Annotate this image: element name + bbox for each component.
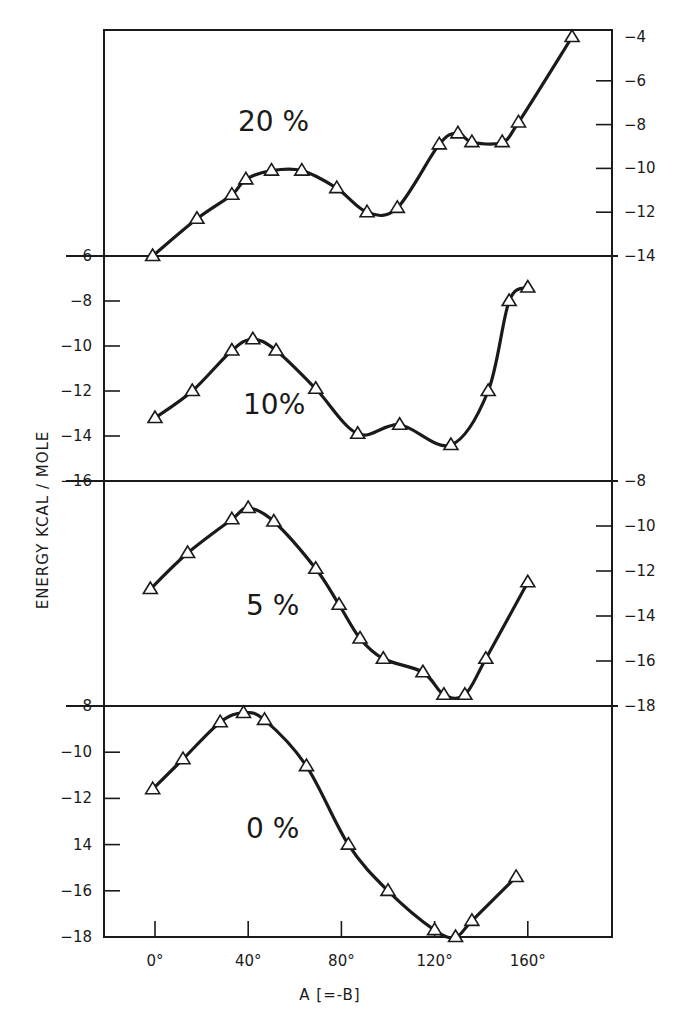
y-tick-label: −16 xyxy=(60,882,92,900)
y-tick-label: −18 xyxy=(624,697,656,715)
triangle-marker xyxy=(565,30,579,42)
plot-frame xyxy=(104,30,612,937)
y-tick-label: −12 xyxy=(624,562,656,580)
axis-ticks xyxy=(104,81,612,937)
triangle-marker xyxy=(481,384,495,396)
curve-0-percent xyxy=(153,713,516,938)
y-tick-label: 14 xyxy=(73,836,92,854)
x-tick-label: 40° xyxy=(235,952,262,970)
y-tick-label: −14 xyxy=(624,607,656,625)
y-tick-label: −12 xyxy=(624,203,656,221)
energy-profile-figure: −4−6−8−10−12−14−6−8−10−12−14−16−8−10−12−… xyxy=(0,0,692,1029)
x-tick-label: 120° xyxy=(417,952,453,970)
y-tick-label: −8 xyxy=(624,116,646,134)
curve-10-percent xyxy=(155,288,528,446)
y-tick-label: −6 xyxy=(70,247,92,265)
panel-label-0: 0 % xyxy=(246,812,299,845)
data-curves xyxy=(150,37,572,938)
y-tick-label: −4 xyxy=(624,28,646,46)
triangle-marker xyxy=(479,652,493,664)
y-tick-label: −10 xyxy=(624,517,656,535)
x-tick-label: 160° xyxy=(510,952,546,970)
y-tick-label: −10 xyxy=(60,337,92,355)
y-tick-label: −16 xyxy=(60,472,92,490)
y-tick-label: −6 xyxy=(624,72,646,90)
plot-frames xyxy=(66,30,618,937)
triangle-marker xyxy=(521,281,535,293)
x-tick-label: 0° xyxy=(146,952,163,970)
panel-label-20: 20 % xyxy=(238,105,309,138)
y-tick-label: −8 xyxy=(624,472,646,490)
triangle-marker xyxy=(509,870,523,882)
y-axis-title: ENERGY KCAL / MOLE xyxy=(34,431,52,610)
data-markers xyxy=(143,30,579,942)
y-tick-label: −10 xyxy=(624,159,656,177)
triangle-marker xyxy=(241,501,255,513)
y-tick-label: −12 xyxy=(60,382,92,400)
panel-label-10: 10% xyxy=(243,388,305,421)
triangle-marker xyxy=(246,332,260,344)
y-tick-label: −12 xyxy=(60,789,92,807)
y-tick-label: −16 xyxy=(624,652,656,670)
x-axis-title: A [=-B] xyxy=(299,986,360,1004)
triangle-marker xyxy=(502,294,516,306)
tick-labels: −4−6−8−10−12−14−6−8−10−12−14−16−8−10−12−… xyxy=(60,28,655,970)
x-tick-label: 80° xyxy=(328,952,355,970)
y-tick-label: −14 xyxy=(624,247,656,265)
y-tick-label: −10 xyxy=(60,743,92,761)
triangle-marker xyxy=(521,575,535,587)
panel-label-5: 5 % xyxy=(246,589,299,622)
y-tick-label: −18 xyxy=(60,928,92,946)
y-tick-label: −8 xyxy=(70,697,92,715)
y-tick-label: −8 xyxy=(70,292,92,310)
y-tick-label: −14 xyxy=(60,427,92,445)
